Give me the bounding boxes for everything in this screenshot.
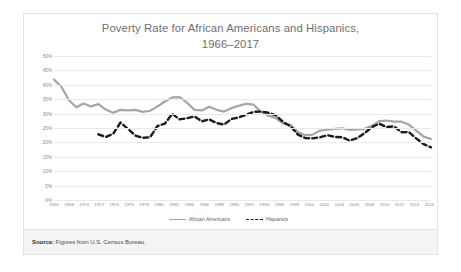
x-axis-tick-label: 1968 <box>64 202 74 207</box>
x-axis-tick-label: 1988 <box>214 202 224 207</box>
source-label: Source: <box>32 239 54 245</box>
gridline <box>54 128 431 129</box>
x-axis-tick-label: 1972 <box>94 202 104 207</box>
y-axis-tick-label: 40% <box>26 82 52 87</box>
x-axis-tick-label: 2012 <box>395 202 405 207</box>
x-axis-tick-label: 2006 <box>350 202 360 207</box>
source-bar: Source: Figures from U.S. Census Bureau. <box>24 229 437 254</box>
y-axis-tick-label: 20% <box>26 140 52 145</box>
gridline <box>54 171 431 172</box>
x-axis-tick-label: 2000 <box>305 202 315 207</box>
gridline <box>54 56 431 57</box>
x-axis-tick-label: 1982 <box>169 202 179 207</box>
plot-region: 0%5%10%15%20%25%30%35%40%45%50% 19661968… <box>24 56 433 229</box>
line-african-americans <box>54 80 431 139</box>
x-axis-tick-label: 2004 <box>335 202 345 207</box>
gridline <box>54 114 431 115</box>
x-axis-tick-label: 1984 <box>184 202 194 207</box>
legend-item-african-americans: African Americans <box>169 216 230 222</box>
x-axis-tick-label: 1980 <box>154 202 164 207</box>
x-axis-tick-label: 1986 <box>199 202 209 207</box>
gridline <box>54 85 431 86</box>
x-axis-tick-label: 1970 <box>79 202 89 207</box>
x-axis-tick-label: 1974 <box>109 202 119 207</box>
gridline <box>54 70 431 71</box>
x-axis-tick-label: 1990 <box>229 202 239 207</box>
legend-item-hispanics: Hispanics <box>246 216 288 222</box>
source-note: Source: Figures from U.S. Census Bureau. <box>32 239 146 245</box>
y-axis-tick-label: 35% <box>26 97 52 102</box>
gridline <box>54 99 431 100</box>
chart-legend: African Americans Hispanics <box>24 216 433 222</box>
x-axis: 1966196819701972197419761978198019821984… <box>54 201 431 211</box>
x-axis-tick-label: 1994 <box>259 202 269 207</box>
x-axis-tick-label: 2010 <box>380 202 390 207</box>
gridline <box>54 186 431 187</box>
x-axis-tick-label: 1996 <box>275 202 285 207</box>
x-axis-tick-label: 1976 <box>124 202 134 207</box>
chart-area: Poverty Rate for African Americans and H… <box>24 14 437 229</box>
x-axis-tick-label: 2008 <box>365 202 375 207</box>
x-axis-tick-label: 2016 <box>425 202 435 207</box>
chart-title-line-2: 1966–2017 <box>24 36 437 52</box>
x-axis-tick-label: 1966 <box>49 202 59 207</box>
source-value: Figures from U.S. Census Bureau. <box>54 239 146 245</box>
y-axis-tick-label: 10% <box>26 169 52 174</box>
legend-label-african-americans: African Americans <box>189 216 230 222</box>
x-axis-tick-label: 1992 <box>244 202 254 207</box>
chart-title: Poverty Rate for African Americans and H… <box>24 20 437 53</box>
y-axis-tick-label: 15% <box>26 154 52 159</box>
x-axis-tick-label: 2002 <box>320 202 330 207</box>
x-axis-tick-label: 1998 <box>290 202 300 207</box>
y-axis-tick-label: 50% <box>26 54 52 59</box>
y-axis-tick-label: 0% <box>26 198 52 203</box>
plot-canvas <box>54 56 431 200</box>
legend-label-hispanics: Hispanics <box>266 216 288 222</box>
y-axis-tick-label: 5% <box>26 183 52 188</box>
y-axis-tick-label: 45% <box>26 68 52 73</box>
x-axis-tick-label: 2014 <box>410 202 420 207</box>
solid-line-swatch-icon <box>169 219 186 220</box>
gridline <box>54 142 431 143</box>
chart-title-line-1: Poverty Rate for African Americans and H… <box>24 20 437 36</box>
y-axis: 0%5%10%15%20%25%30%35%40%45%50% <box>26 56 52 200</box>
x-axis-tick-label: 1978 <box>139 202 149 207</box>
y-axis-tick-label: 25% <box>26 126 52 131</box>
dashed-line-swatch-icon <box>246 219 263 220</box>
gridline <box>54 157 431 158</box>
figure-card: Poverty Rate for African Americans and H… <box>23 13 438 255</box>
y-axis-tick-label: 30% <box>26 111 52 116</box>
